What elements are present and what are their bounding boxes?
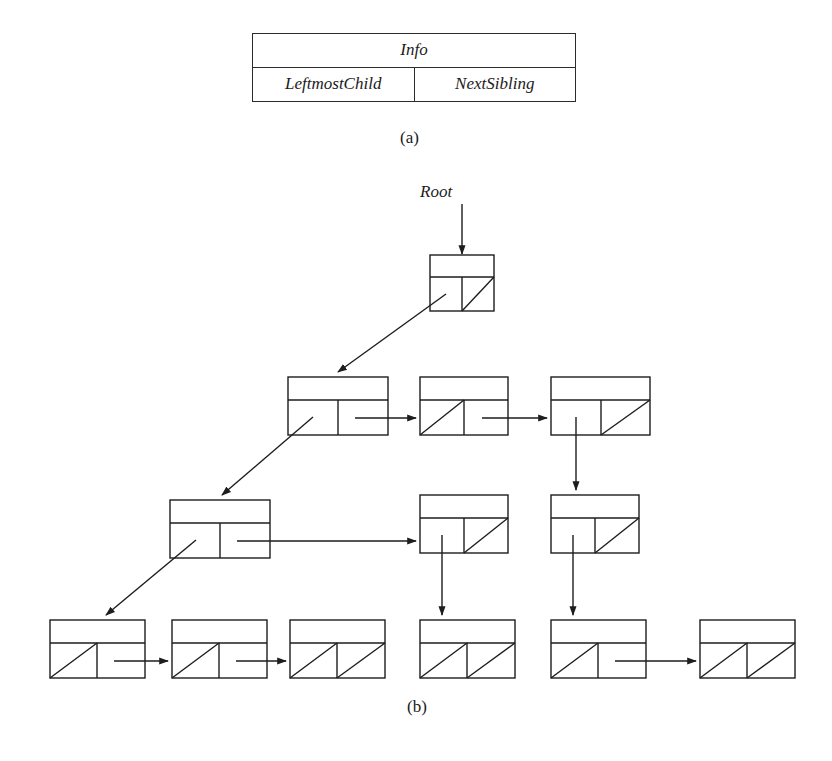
null-slash-next-sibling	[462, 277, 494, 311]
tree-diagram	[0, 0, 832, 761]
node-n3	[551, 377, 650, 435]
null-slash-next-sibling-n6	[595, 518, 639, 553]
null-slash-next-sibling-n10	[467, 643, 515, 678]
null-slash-next-sibling-n12	[747, 643, 795, 678]
null-slash-leftmost-child-n7	[50, 643, 97, 678]
node-n9	[290, 620, 385, 678]
figure-page: Info LeftmostChild NextSibling (a) Root	[0, 0, 832, 761]
null-slash-leftmost-child-n11	[551, 643, 598, 678]
null-slash-next-sibling-n9	[337, 643, 385, 678]
node-n8	[172, 620, 267, 678]
null-slash-leftmost-child-n2	[420, 400, 464, 435]
node-n6	[551, 495, 639, 553]
node-n12	[700, 620, 795, 678]
null-slash-next-sibling-n5	[464, 518, 508, 553]
node-n10	[420, 620, 515, 678]
node-n5	[420, 495, 508, 553]
null-slash-leftmost-child-n8	[172, 643, 219, 678]
null-slash-leftmost-child-n12	[700, 643, 747, 678]
caption-part-b: (b)	[407, 697, 427, 717]
null-slash-leftmost-child-n10	[420, 643, 467, 678]
node-n11	[551, 620, 646, 678]
null-slash-next-sibling-n3	[601, 400, 650, 435]
node-root	[430, 255, 494, 311]
node-n2	[420, 377, 508, 435]
edge-root-to-n1	[338, 294, 446, 372]
edge-n4-to-n7	[106, 540, 196, 615]
node-n7	[50, 620, 145, 678]
edge-n1-to-n4	[222, 417, 313, 495]
null-slash-leftmost-child-n9	[290, 643, 337, 678]
